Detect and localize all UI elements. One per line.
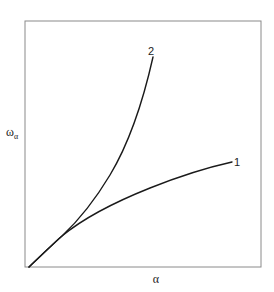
chart: 1 2 α ωα [0,0,274,292]
plot-frame [25,21,261,267]
y-axis-label: ωα [6,125,19,141]
y-axis-label-subscript: α [14,132,19,141]
series-2-label: 2 [148,45,154,57]
x-axis-label: α [153,272,160,286]
series-1-label: 1 [234,156,240,168]
curve-series-2 [29,57,153,267]
y-axis-label-main: ω [6,125,14,139]
curve-series-1 [29,162,232,267]
